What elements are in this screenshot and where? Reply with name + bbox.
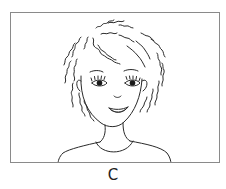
right-eye bbox=[130, 80, 136, 86]
figure-caption: C bbox=[0, 166, 226, 184]
illustration-frame bbox=[10, 12, 220, 163]
left-eye bbox=[97, 80, 103, 86]
girl-illustration bbox=[10, 12, 220, 163]
